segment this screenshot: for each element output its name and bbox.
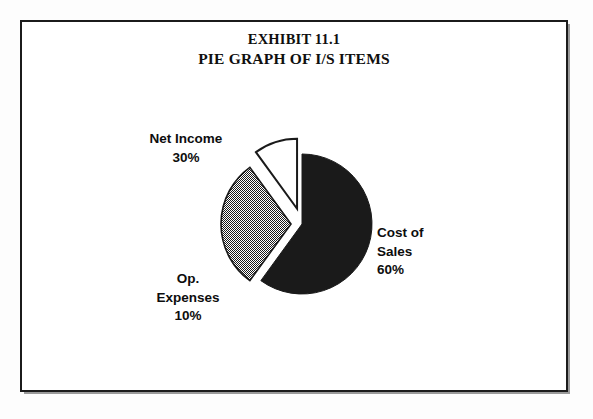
label-line: Cost of [377,224,487,243]
label-line: Op. [128,270,248,289]
scanned-page: EXHIBIT 11.1 PIE GRAPH OF I/S ITEMS Net … [0,0,593,419]
pie-label-op-expenses: Op.Expenses10% [128,270,248,326]
pie-chart-graphic [22,22,570,394]
label-line: Expenses [128,289,248,308]
exhibit-frame: EXHIBIT 11.1 PIE GRAPH OF I/S ITEMS Net … [20,20,568,392]
label-line: Net Income [126,130,246,149]
label-line: 30% [126,149,246,168]
label-line: 10% [128,307,248,326]
label-line: 60% [377,261,487,280]
pie-label-cost-of-sales: Cost ofSales60% [377,224,487,280]
pie-chart-area: Net Income30% Cost ofSales60% Op.Expense… [22,22,570,394]
label-line: Sales [377,243,487,262]
pie-label-net-income: Net Income30% [126,130,246,167]
